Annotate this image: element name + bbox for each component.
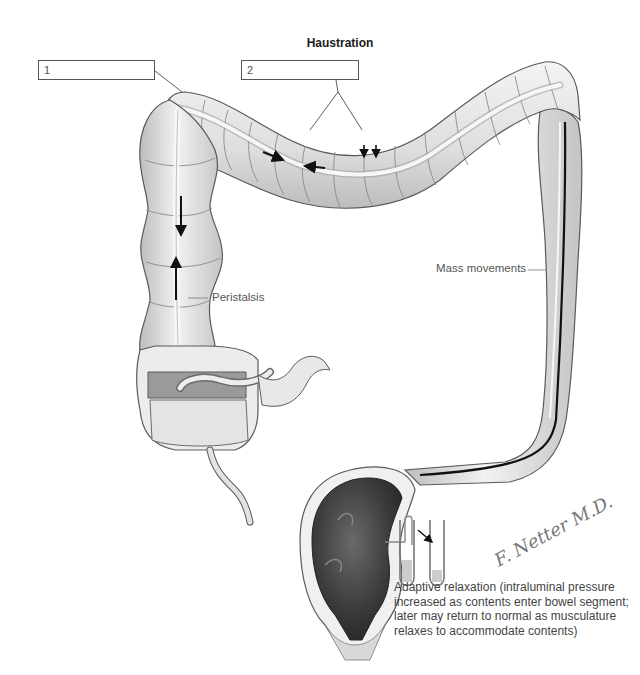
leader-line-1 xyxy=(155,71,186,95)
label-box-1[interactable]: 1 xyxy=(38,60,155,80)
label-box-1-number: 1 xyxy=(44,64,50,76)
colon-illustration xyxy=(0,0,640,675)
label-box-2-number: 2 xyxy=(247,64,253,76)
cecum xyxy=(137,346,330,522)
label-box-2[interactable]: 2 xyxy=(241,60,359,80)
peristalsis-label: Peristalsis xyxy=(212,291,264,303)
leader-line-2 xyxy=(310,80,362,130)
transverse-colon xyxy=(162,62,580,208)
adaptive-relaxation-caption: Adaptive relaxation (intraluminal pressu… xyxy=(394,580,640,638)
mass-movements-label: Mass movements xyxy=(436,262,526,274)
